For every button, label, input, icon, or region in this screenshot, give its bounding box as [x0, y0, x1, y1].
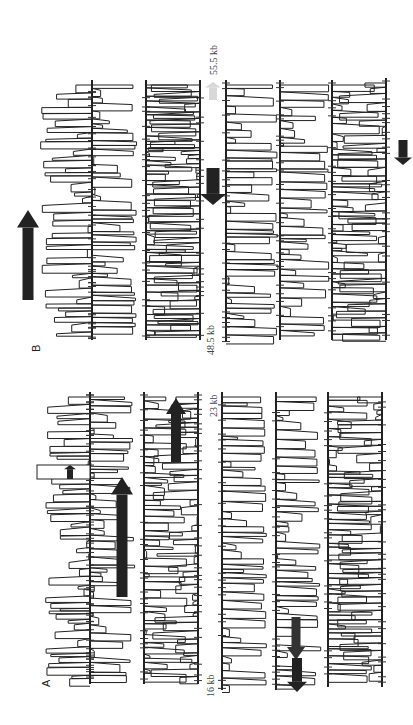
panel-a-plot — [0, 362, 413, 725]
panel-b: B 48.5 kb 55.5 kb — [0, 0, 413, 362]
panel-a: A 16 kb 23 kb — [0, 362, 413, 725]
panel-b-plot — [0, 0, 413, 362]
